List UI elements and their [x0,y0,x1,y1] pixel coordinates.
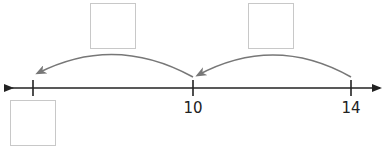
answer-box-jump-1[interactable] [90,3,136,49]
answer-box-result[interactable] [10,100,56,146]
tick-label-14: 14 [341,99,360,117]
number-line-diagram [0,0,390,149]
jump-arrow-10-to-left [38,54,193,77]
jump-arrow-14-to-10 [198,55,351,77]
tick-label-10: 10 [183,99,202,117]
answer-box-jump-2[interactable] [248,3,294,49]
